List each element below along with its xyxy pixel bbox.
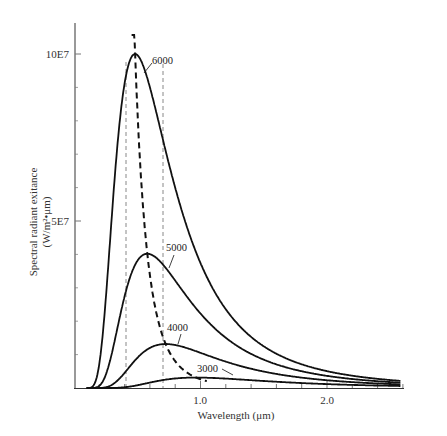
leader-5000 [169, 255, 174, 268]
curve-label-5000-text: 5000 [166, 242, 187, 253]
leader-4000 [178, 334, 181, 344]
curve-6000K [87, 54, 401, 388]
y-tick-label-mid: 5E7 [51, 215, 69, 227]
y-axis-ticks [75, 54, 81, 355]
x-axis-title: Wavelength (μm) [198, 409, 275, 422]
y-axis-title-line1: Spectral radiant exitance [27, 168, 39, 277]
curve-label-6000: 6000 [144, 55, 173, 73]
curve-label-4000-text: 4000 [167, 322, 188, 333]
curve-label-3000-text: 3000 [197, 363, 218, 374]
curve-label-4000: 4000 [167, 322, 188, 344]
curve-5000K [87, 254, 401, 388]
blackbody-curves [87, 54, 401, 388]
leader-3000 [222, 369, 233, 375]
leader-6000 [144, 63, 152, 73]
curve-label-6000-text: 6000 [152, 55, 173, 66]
curve-label-3000: 3000 [197, 363, 233, 375]
x-tick-label-2: 2.0 [320, 394, 334, 406]
x-tick-label-1: 1.0 [193, 394, 207, 406]
y-axis-title: Spectral radiant exitance (W/m²•μm) [27, 168, 53, 277]
y-axis-title-line2: (W/m²•μm) [40, 196, 53, 247]
y-tick-label-top: 10E7 [46, 48, 70, 60]
blackbody-radiation-chart: 10E7 5E7 1.0 2.0 Wavelength (μm) Spectra… [0, 0, 447, 436]
axes [74, 23, 404, 389]
curve-label-5000: 5000 [166, 242, 187, 268]
